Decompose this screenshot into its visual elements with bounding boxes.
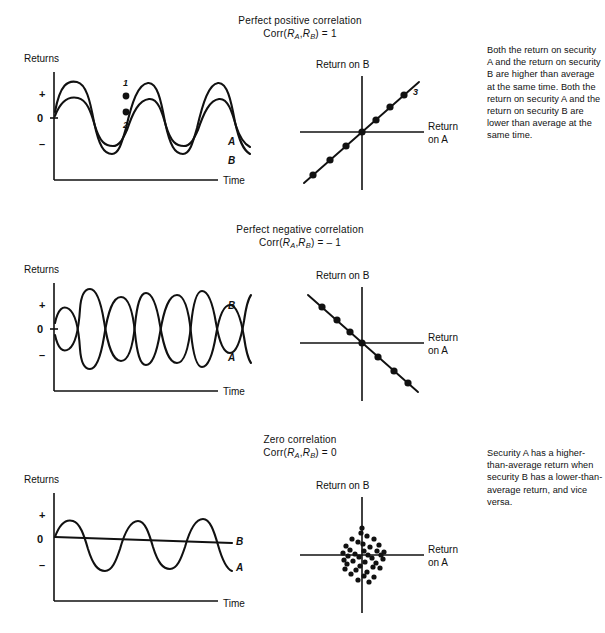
series-label-b: B — [236, 536, 243, 547]
correlation-row-positive: Perfect positive correlation Corr(RA,RB)… — [0, 0, 605, 211]
data-point-label-2: 2 — [122, 120, 128, 130]
data-point-2 — [123, 109, 130, 116]
scatter-y-axis-title: Return on B — [316, 59, 370, 70]
scatter-x-axis-title-line2: on A — [428, 557, 448, 568]
scatter-point — [342, 142, 349, 149]
timeseries-chart-zero: Returns + 0 – B A Time — [22, 471, 254, 621]
scatter-point — [318, 303, 325, 310]
y-tick-plus: + — [39, 299, 45, 311]
scatter-point — [404, 379, 411, 386]
explanation-text-positive: Both the return on security A and the re… — [487, 44, 603, 142]
scatter-point — [358, 128, 365, 135]
scatter-point — [390, 367, 397, 374]
correlation-row-negative: Perfect negative correlation Corr(RA,RB)… — [0, 211, 605, 421]
panel-title-line2: Corr(RA,RB) = 0 — [150, 446, 450, 460]
series-line-b — [55, 289, 251, 363]
scatter-chart-negative: Return on B Return on A — [288, 261, 468, 411]
scatter-point — [386, 103, 393, 110]
scatter-x-axis-title-line1: Return — [428, 332, 458, 343]
y-tick-zero: 0 — [37, 323, 43, 335]
scatter-point — [374, 353, 381, 360]
series-label-a: A — [227, 352, 235, 363]
timeseries-chart-negative: Returns + 0 – B A Time — [22, 261, 254, 411]
correlation-row-zero: Zero correlation Corr(RA,RB) = 0 Returns… — [0, 421, 605, 633]
scatter-point — [358, 339, 365, 346]
panel-title-line1: Perfect negative correlation — [236, 224, 363, 235]
x-axis-title: Time — [223, 175, 245, 186]
y-axis-title: Returns — [24, 474, 59, 485]
scatter-point — [333, 316, 340, 323]
panel-title-zero: Zero correlation Corr(RA,RB) = 0 — [150, 433, 450, 460]
timeseries-chart-positive: Returns + 0 – 1 2 A B Time — [22, 50, 254, 200]
y-tick-plus: + — [39, 509, 45, 521]
scatter-x-axis-title-line1: Return — [428, 121, 458, 132]
series-label-a: A — [227, 136, 235, 147]
scatter-y-axis-title: Return on B — [316, 270, 370, 281]
panel-title-line1: Perfect positive correlation — [238, 15, 361, 26]
series-line-b — [55, 537, 232, 543]
y-tick-minus: – — [39, 349, 45, 361]
panel-title-line2: Corr(RA,RB) = – 1 — [150, 236, 450, 250]
scatter-x-axis-title-line2: on A — [428, 134, 448, 145]
x-axis-title: Time — [223, 386, 245, 397]
panel-title-negative: Perfect negative correlation Corr(RA,RB)… — [150, 223, 450, 250]
panel-title-line1: Zero correlation — [263, 434, 336, 445]
y-axis-title: Returns — [24, 53, 59, 64]
series-label-b: B — [228, 300, 235, 311]
series-line-b — [55, 98, 250, 147]
panel-title-line2: Corr(RA,RB) = 1 — [150, 27, 450, 41]
scatter-point — [372, 116, 379, 123]
series-line-a — [55, 82, 250, 154]
data-point-label-1: 1 — [123, 78, 128, 88]
scatter-point — [326, 156, 333, 163]
y-axis-title: Returns — [24, 264, 59, 275]
y-tick-zero: 0 — [37, 112, 43, 124]
y-tick-zero: 0 — [37, 533, 43, 545]
series-label-b: B — [228, 155, 235, 166]
scatter-x-axis-title-line2: on A — [428, 345, 448, 356]
series-line-a — [55, 295, 251, 369]
series-label-a: A — [235, 562, 243, 573]
panel-title-positive: Perfect positive correlation Corr(RA,RB)… — [150, 14, 450, 41]
series-line-a — [55, 519, 232, 571]
scatter-y-axis-title: Return on B — [316, 480, 370, 491]
y-tick-minus: – — [39, 138, 45, 150]
scatter-point — [346, 328, 353, 335]
y-tick-plus: + — [39, 88, 45, 100]
scatter-point — [400, 91, 407, 98]
x-axis-title: Time — [223, 598, 245, 609]
scatter-point — [309, 171, 316, 178]
y-tick-minus: – — [39, 559, 45, 571]
scatter-x-axis-title-line1: Return — [428, 544, 458, 555]
scatter-chart-positive: Return on B 3 Return on A — [288, 50, 468, 200]
data-point-1 — [123, 93, 130, 100]
scatter-point-label-3: 3 — [413, 87, 418, 97]
scatter-chart-zero: Return on B — [288, 471, 468, 621]
